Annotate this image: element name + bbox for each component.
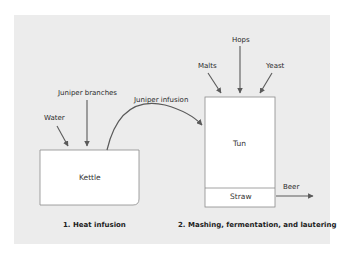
kettle-label: Kettle xyxy=(79,174,101,182)
stage1-caption: 1. Heat infusion xyxy=(63,222,126,229)
yeast-arrow xyxy=(260,73,272,93)
juniper-branches-label: Juniper branches xyxy=(58,90,117,97)
water-label: Water xyxy=(44,115,65,122)
malts-label: Malts xyxy=(198,63,217,70)
juniper-infusion-arrow xyxy=(107,103,202,150)
hops-label: Hops xyxy=(232,37,250,44)
tun-label: Tun xyxy=(233,140,246,148)
juniper-infusion-label: Juniper infusion xyxy=(134,97,188,104)
yeast-label: Yeast xyxy=(266,63,284,70)
beer-label: Beer xyxy=(283,184,299,191)
water-arrow xyxy=(57,126,68,146)
tun-box xyxy=(205,97,275,207)
stage2-caption: 2. Mashing, fermentation, and lautering xyxy=(178,222,336,229)
malts-arrow xyxy=(208,73,221,93)
diagram-graphics xyxy=(0,0,339,257)
straw-label: Straw xyxy=(230,193,252,201)
